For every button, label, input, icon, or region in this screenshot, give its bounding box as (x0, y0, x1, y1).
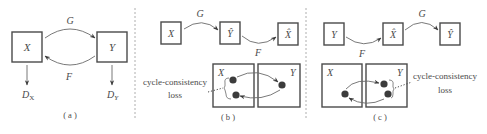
panel-caption-a: ( a ) (63, 110, 77, 120)
mapping-arrow-g (45, 29, 95, 38)
annotation-line1: cycle-consistency (413, 71, 477, 81)
domain-label-x: X (23, 41, 32, 53)
chain-arrow-g (405, 23, 438, 31)
chain-arrow-f (346, 37, 381, 44)
chain-label-f: F (358, 48, 366, 59)
mapping-label-f: F (65, 71, 73, 82)
cyclegan-diagram: X Y G F DX DY ( a ) X Ŷ X̂ G F (0, 0, 487, 134)
chain-label-f: F (254, 47, 262, 58)
discriminator-label-dy: DY (106, 89, 119, 102)
sample-y (380, 80, 387, 87)
mapping-label-g: G (66, 15, 73, 26)
mapping-arrow-f (45, 56, 95, 65)
sample-y-reconstructed (384, 90, 391, 97)
chain-label-x: X (167, 28, 175, 39)
panel-caption-c: ( c ) (373, 112, 387, 122)
panel-caption-b: ( b ) (221, 112, 235, 122)
sample-x (229, 76, 236, 83)
discriminator-label-dx: DX (21, 89, 34, 102)
chain-label-x-hat: X̂ (284, 28, 292, 40)
domain-label-x: X (326, 67, 334, 78)
panel-c: Y X̂ Ŷ F G X Y cycle-consistency loss ( … (322, 8, 477, 122)
sample-x-translated (341, 90, 348, 97)
annotation-line2: loss (438, 85, 453, 95)
panel-a: X Y G F DX DY ( a ) (12, 15, 127, 120)
chain-label-x-hat: X̂ (389, 28, 397, 40)
panel-b: X Ŷ X̂ G F X Y cycle-consistency loss ( … (143, 8, 300, 122)
sample-x-reconstructed (232, 91, 239, 98)
chain-arrow-g (184, 23, 218, 30)
chain-label-g: G (418, 8, 425, 19)
annotation-line2: loss (168, 90, 183, 100)
sample-y-translated (278, 81, 285, 88)
chain-arrow-f (242, 36, 276, 43)
annotation-line1: cycle-consistency (143, 77, 207, 87)
chain-label-g: G (196, 8, 203, 19)
domain-label-x: X (217, 67, 225, 78)
